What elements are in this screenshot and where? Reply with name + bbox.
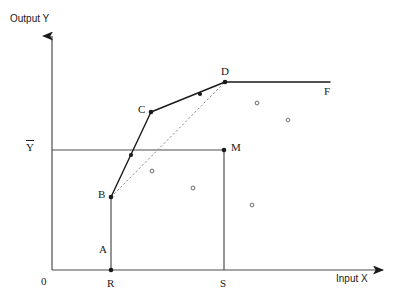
point-label-m: M [231,142,241,153]
observation-marker [250,203,254,207]
point-label-c: C [138,104,145,115]
point-marker-c [149,110,154,115]
point-label-d: D [221,66,229,77]
observation-marker [150,169,154,173]
point-marker-d [223,80,228,85]
named-point-marker-group [109,80,228,273]
origin-label: 0 [41,276,47,287]
frontier-point-marker [198,92,202,96]
observation-marker [286,118,290,122]
observation-marker [255,101,259,105]
scatter-marker-group [150,101,290,207]
mean-output-tick-label: Y [26,140,34,153]
point-label-f: F [324,86,330,97]
y-axis-title: Output Y [10,14,49,24]
diagram-svg [0,0,404,305]
mean-output-letter: Y [26,142,34,153]
point-label-s: S [220,278,226,289]
frontier-point-marker [129,153,133,157]
observation-marker [191,186,195,190]
production-frontier-path [111,82,330,197]
figure-canvas: Output Y Input X 0 Y ABCDFMRS [0,0,404,305]
point-marker-m [222,148,227,153]
point-label-a: A [99,244,107,255]
point-marker-b [109,195,114,200]
frontier-marker-group [129,92,202,157]
x-axis-title: Input X [336,274,368,284]
point-label-b: B [98,189,105,200]
dashed-chord-b-d [111,82,225,197]
point-marker-r [109,268,114,273]
point-label-r: R [107,278,114,289]
